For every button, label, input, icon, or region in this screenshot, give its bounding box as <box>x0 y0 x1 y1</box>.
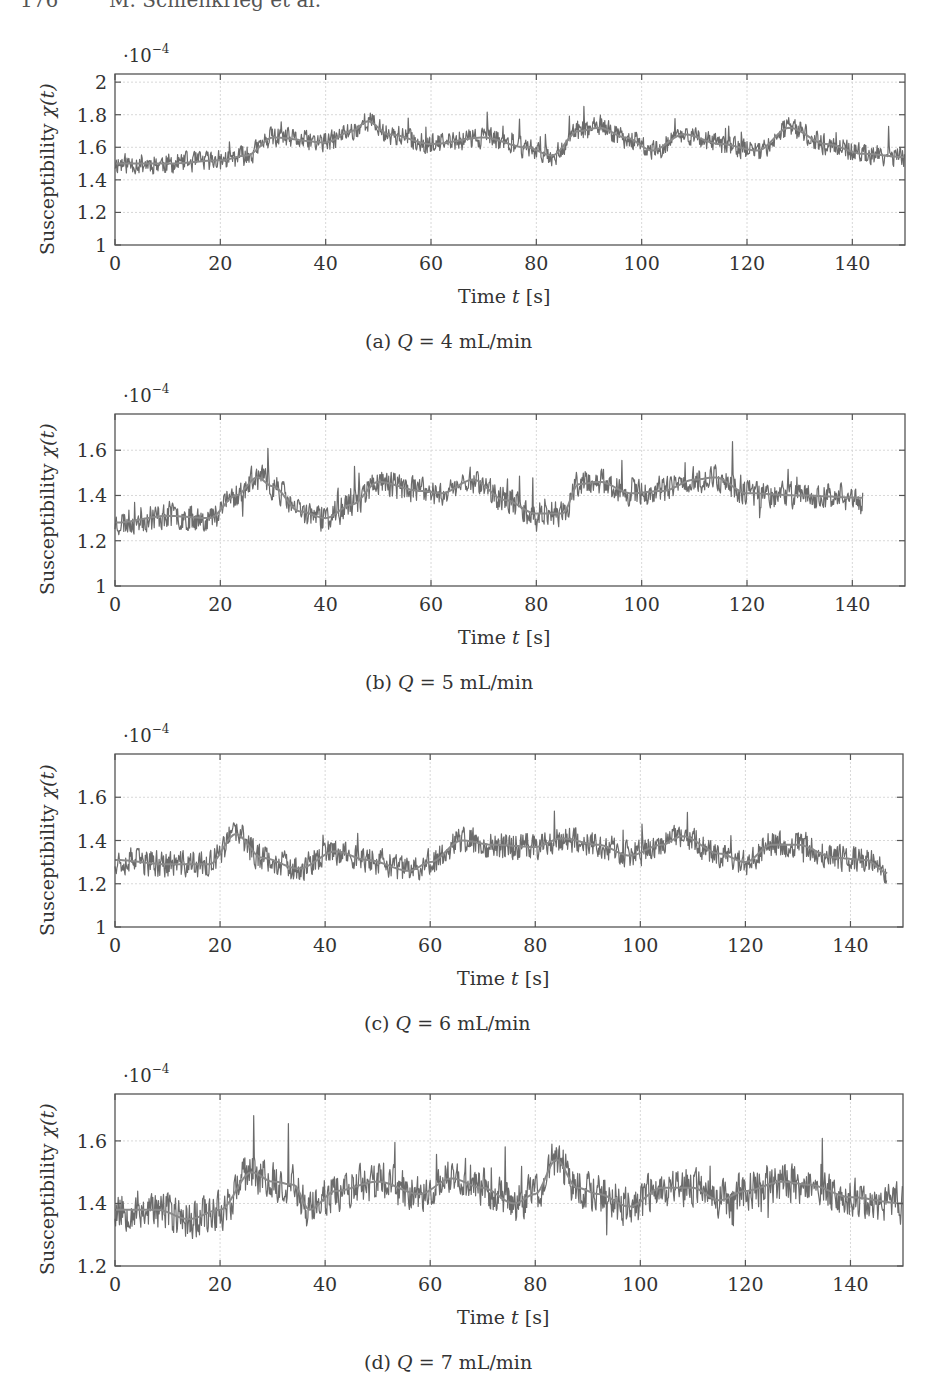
raw-signal-line <box>115 1116 902 1239</box>
x-tick-label: 100 <box>622 1273 658 1295</box>
y-tick-label: 1.2 <box>77 1255 107 1277</box>
x-tick-label: 60 <box>418 1273 442 1295</box>
axes-frame <box>115 1094 903 1266</box>
x-tick-label: 120 <box>727 1273 763 1295</box>
x-tick-label: 80 <box>523 1273 547 1295</box>
y-tick-label: 1.4 <box>77 1192 107 1214</box>
x-tick-label: 40 <box>313 1273 337 1295</box>
x-tick-label: 20 <box>208 1273 232 1295</box>
plot-area-d: 0204060801001201401.21.41.6 <box>0 0 943 1395</box>
y-tick-label: 1.6 <box>77 1130 107 1152</box>
figure-caption: (d) Q = 7 mL/min <box>364 1351 532 1373</box>
x-tick-label: 140 <box>832 1273 868 1295</box>
x-axis-label: Time t [s] <box>457 1306 549 1328</box>
x-tick-label: 0 <box>109 1273 121 1295</box>
